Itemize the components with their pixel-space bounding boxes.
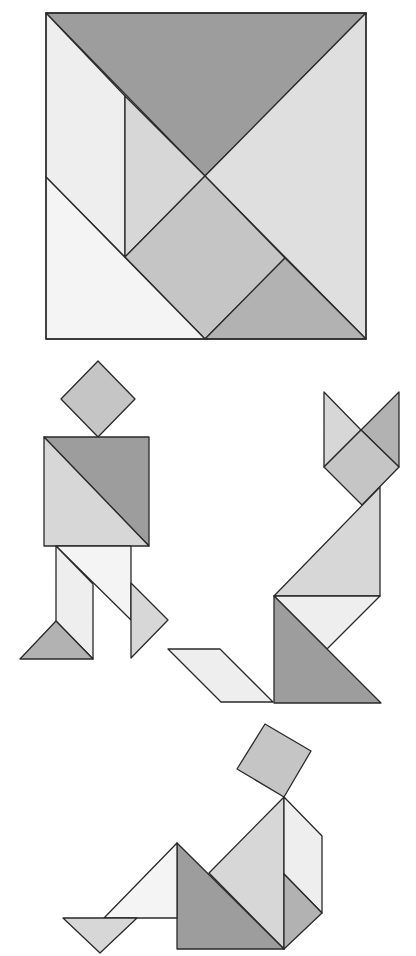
head-square [237,724,311,797]
right-foot-small-triangle [131,583,168,658]
tangram-square [46,13,366,339]
foot-small-triangle [63,918,137,953]
sitting-cat [168,392,399,703]
tail-parallelogram [168,649,273,702]
tangram-illustration [0,0,416,956]
leg-medium-triangle [104,843,177,918]
body-large-triangle [274,487,380,596]
walking-man [20,361,168,659]
head-square [61,361,135,437]
sitting-person [63,724,322,953]
